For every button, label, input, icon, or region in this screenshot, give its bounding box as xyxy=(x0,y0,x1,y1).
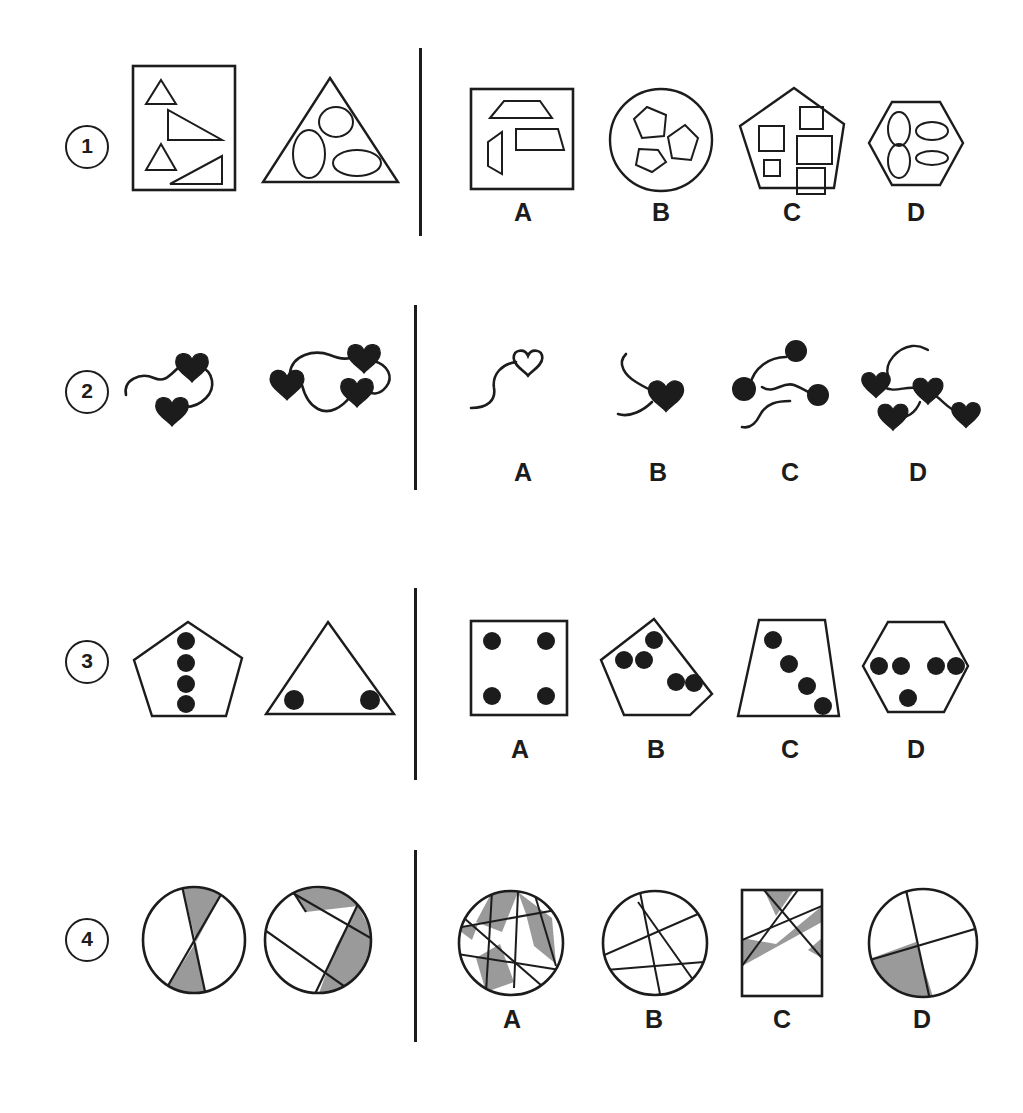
heart-marker xyxy=(952,403,981,428)
dot xyxy=(360,690,380,710)
dot xyxy=(483,632,501,650)
puzzle-row-1: 1 xyxy=(0,0,1023,270)
prompt-squiggle-two-hearts xyxy=(118,340,253,435)
dot xyxy=(667,673,685,691)
dot xyxy=(177,654,195,672)
dot xyxy=(927,657,945,675)
option-4-c-rectangle-chords-shaded[interactable] xyxy=(740,888,824,998)
option-4-d-circle-one-shaded[interactable] xyxy=(866,886,980,1000)
heart-marker-outline xyxy=(514,351,543,376)
option-3-label-c: C xyxy=(770,735,810,764)
option-2-a-squiggle-outline-heart[interactable] xyxy=(468,340,573,440)
dot xyxy=(899,689,917,707)
dot xyxy=(870,657,888,675)
option-3-b-pentagon-five-dots[interactable] xyxy=(598,616,716,718)
dot xyxy=(615,651,633,669)
option-2-label-d: D xyxy=(898,458,938,487)
dot xyxy=(685,674,703,692)
dot-marker xyxy=(807,384,829,406)
dot xyxy=(764,631,782,649)
prompt-circle-three-chords-shaded xyxy=(262,884,374,996)
heart-marker xyxy=(913,378,943,404)
dot xyxy=(177,675,195,693)
prompt-circle-bowtie-shaded xyxy=(140,884,248,996)
row-number-4: 4 xyxy=(65,918,109,962)
option-1-c-pentagon-with-squares[interactable] xyxy=(736,84,848,196)
option-3-label-d: D xyxy=(896,735,936,764)
option-3-label-a: A xyxy=(500,735,540,764)
row-2-divider xyxy=(414,305,417,490)
prompt-pentagon-four-dots xyxy=(130,618,250,723)
dot xyxy=(814,697,832,715)
worksheet-sheet: 1 xyxy=(0,0,1023,1113)
option-4-label-d: D xyxy=(902,1005,942,1034)
dot xyxy=(892,657,910,675)
option-1-label-b: B xyxy=(641,198,681,227)
option-1-label-c: C xyxy=(772,198,812,227)
dot xyxy=(483,687,501,705)
heart-marker xyxy=(270,370,304,399)
row-1-divider xyxy=(419,48,422,236)
row-number-2: 2 xyxy=(65,370,109,414)
row-4-divider xyxy=(414,850,417,1042)
puzzle-row-2: 2 xyxy=(0,280,1023,530)
option-3-c-trapezoid-four-dots[interactable] xyxy=(735,616,843,720)
heart-marker xyxy=(862,373,891,398)
row-3-divider xyxy=(414,588,417,780)
row-number-1: 1 xyxy=(65,125,109,169)
option-2-b-squiggle-solid-heart[interactable] xyxy=(608,340,708,440)
puzzle-row-3: 3 xyxy=(0,540,1023,790)
option-1-label-a: A xyxy=(503,198,543,227)
option-4-label-a: A xyxy=(492,1005,532,1034)
dot xyxy=(284,690,304,710)
option-2-label-c: C xyxy=(770,458,810,487)
heart-marker xyxy=(648,381,683,412)
dot xyxy=(177,632,195,650)
prompt-squiggle-three-hearts xyxy=(272,335,402,435)
option-1-d-hexagon-with-ellipses[interactable] xyxy=(866,98,966,190)
option-2-label-a: A xyxy=(503,458,543,487)
heart-marker xyxy=(156,398,189,426)
option-4-label-c: C xyxy=(762,1005,802,1034)
option-1-b-circle-with-pentagons[interactable] xyxy=(606,86,716,194)
dot-marker xyxy=(732,377,756,401)
option-3-label-b: B xyxy=(636,735,676,764)
option-2-d-squiggle-four-hearts[interactable] xyxy=(858,328,983,446)
option-3-d-hexagon-five-dots[interactable] xyxy=(860,618,972,718)
dot xyxy=(645,631,663,649)
dot xyxy=(798,677,816,695)
dot xyxy=(537,632,555,650)
dot xyxy=(780,655,798,673)
heart-marker xyxy=(176,354,209,382)
option-2-label-b: B xyxy=(638,458,678,487)
heart-marker xyxy=(348,345,381,373)
puzzle-row-4: 4 xyxy=(0,800,1023,1080)
option-3-a-square-four-dots[interactable] xyxy=(468,618,570,718)
option-1-a-square-with-trapezoids[interactable] xyxy=(468,86,578,192)
dot xyxy=(635,651,653,669)
dot xyxy=(537,687,555,705)
heart-marker xyxy=(878,404,908,430)
option-4-a-circle-many-chords[interactable] xyxy=(456,888,566,998)
prompt-triangle-two-dots xyxy=(262,618,402,723)
option-2-c-squiggle-circles[interactable] xyxy=(730,335,840,445)
prompt-triangle-with-ellipses xyxy=(258,72,403,187)
dot xyxy=(947,657,965,675)
prompt-rectangle-with-triangles xyxy=(130,62,240,194)
dot-marker xyxy=(785,340,807,362)
option-1-label-d: D xyxy=(896,198,936,227)
option-4-b-circle-chords-unshaded[interactable] xyxy=(600,888,710,998)
dot xyxy=(177,695,195,713)
row-number-3: 3 xyxy=(65,640,109,684)
option-4-label-b: B xyxy=(634,1005,674,1034)
